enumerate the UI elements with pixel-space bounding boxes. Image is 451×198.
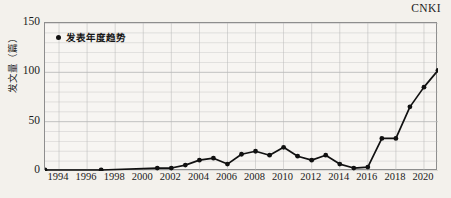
- line-chart-svg: [45, 23, 438, 171]
- chart-page: CNKI 发文量（篇） 050100150 发表年度趋势 19941996199…: [0, 0, 451, 198]
- x-tick-label: 2012: [300, 172, 321, 183]
- x-tick-label: 2000: [132, 172, 153, 183]
- x-tick-label: 2010: [272, 172, 293, 183]
- x-tick-label: 2008: [244, 172, 265, 183]
- y-tick-label: 100: [14, 65, 40, 77]
- x-tick-label: 2006: [216, 172, 237, 183]
- x-tick-label: 2020: [412, 172, 433, 183]
- x-tick-label: 1996: [76, 172, 97, 183]
- legend-label: 发表年度趋势: [66, 30, 126, 44]
- source-label: CNKI: [411, 2, 441, 14]
- x-tick-label: 2004: [188, 172, 209, 183]
- x-tick-label: 1994: [48, 172, 69, 183]
- y-tick-label: 150: [14, 16, 40, 28]
- x-axis-tick-labels: 1994199619982000200220042006200820102012…: [0, 172, 451, 192]
- x-tick-label: 2018: [384, 172, 405, 183]
- x-tick-label: 1998: [104, 172, 125, 183]
- x-tick-label: 2014: [328, 172, 349, 183]
- dot-marker-icon: [56, 35, 61, 40]
- y-axis-tick-labels: 050100150: [10, 0, 40, 198]
- plot-area: [44, 22, 437, 170]
- x-tick-label: 2002: [160, 172, 181, 183]
- x-tick-label: 2016: [356, 172, 377, 183]
- y-tick-label: 50: [14, 115, 40, 127]
- legend: 发表年度趋势: [56, 30, 126, 44]
